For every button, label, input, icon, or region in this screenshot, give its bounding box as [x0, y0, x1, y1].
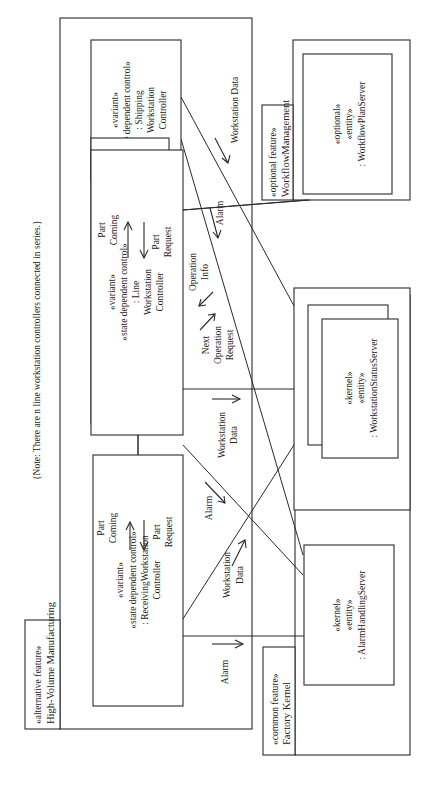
wss-l1: «kernel» — [344, 371, 354, 404]
msg-part-coming-bottom-l2: Coming — [108, 512, 118, 543]
ahs-l2: «entity» — [344, 599, 354, 630]
package-name-workflow: WorkflowManagement — [280, 100, 291, 197]
shipping-l3: : Shipping — [134, 90, 144, 130]
wps-l3: : WorkflowPlanServer — [357, 81, 367, 167]
workflow-plan-server: «optional» «entity» : WorkflowPlanServer — [303, 54, 392, 194]
msg-next-operation-request-l2: Operation — [213, 326, 223, 364]
msg-part-coming-top-l1: Part — [97, 222, 107, 238]
wss-l2: «entity» — [356, 372, 366, 403]
msg-next-operation-request-l1: Next — [201, 335, 211, 354]
shipping-l5: Controller — [158, 90, 168, 130]
msg-workstation-data-line-l1: Workstation — [217, 412, 227, 458]
line-l4: Workstation — [143, 269, 153, 315]
line-l3: : Line — [131, 281, 141, 303]
receiving-l1: «variant» — [115, 562, 125, 598]
msg-workstation-data-shipping: Workstation Data — [230, 76, 240, 143]
msg-operation-info-l1: Operation — [188, 253, 198, 291]
package-stereotype-workflow: «optional feature» — [268, 127, 278, 197]
shipping-l1: «variant» — [110, 92, 120, 128]
workstation-status-server: «kernel» «entity» : WorkstationStatusSer… — [294, 288, 410, 510]
ahs-l3: : AlarmHandlingServer — [357, 570, 367, 660]
msg-part-coming-top-l2: Coming — [109, 214, 119, 245]
alarm-handling-server: «kernel» «entity» : AlarmHandlingServer — [304, 545, 394, 685]
series-note: {Note: There are n line workstation cont… — [32, 220, 42, 480]
line-l1: «variant» — [107, 274, 117, 310]
msg-workstation-data-receiving-l2: Data — [235, 565, 245, 584]
receiving-l4: Controller — [152, 560, 162, 600]
msg-operation-info-l2: Info — [200, 264, 210, 280]
wss-l3: : WorkstationStatusServer — [369, 338, 379, 438]
msg-alarm-shipping: Alarm — [215, 200, 225, 225]
msg-part-coming-bottom-l1: Part — [96, 520, 106, 536]
wps-l1: «optional» — [332, 103, 342, 144]
msg-next-operation-request-l3: Request — [225, 329, 235, 360]
package-name-factory-kernel: Factory Kernel — [281, 682, 292, 745]
receiving-workstation-controller: «variant» «state dependent control» : Re… — [93, 455, 183, 706]
wps-l2: «entity» — [344, 108, 354, 139]
ahs-l1: «kernel» — [332, 598, 342, 631]
msg-alarm-receiving: Alarm — [220, 659, 230, 684]
msg-part-request-top-l2: Request — [163, 226, 173, 257]
msg-alarm-line: Alarm — [204, 495, 214, 520]
package-name-high-volume: High-Volume Manufacturing — [45, 601, 56, 724]
line-l5: Controller — [155, 272, 165, 312]
msg-workstation-data-receiving-l1: Workstation — [222, 552, 232, 598]
uml-communication-diagram: {Note: There are n line workstation cont… — [0, 0, 423, 795]
line-workstation-controller: «variant» «state dependent control» : Li… — [91, 138, 183, 435]
package-stereotype-high-volume: «alternative feature» — [33, 645, 43, 724]
msg-part-request-bottom-l2: Request — [164, 516, 174, 547]
msg-part-request-bottom-l1: Part — [152, 524, 162, 540]
shipping-l4: Workstation — [146, 87, 156, 133]
package-stereotype-factory-kernel: «common feature» — [270, 673, 280, 745]
msg-part-request-top-l1: Part — [151, 234, 161, 250]
msg-workstation-data-line-l2: Data — [229, 425, 239, 444]
